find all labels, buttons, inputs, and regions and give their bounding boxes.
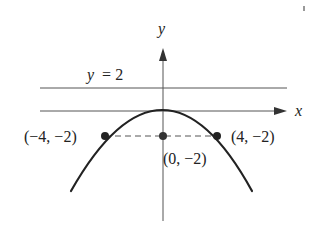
y-axis-label: y [156,20,166,38]
point-focus [159,132,167,140]
x-axis-label: x [294,102,302,119]
point-right [213,132,221,140]
point-focus-label: (0, −2) [163,150,207,168]
scan-artifact [303,6,305,11]
directrix-label: y = 2 [85,66,123,84]
directrix-label-rest: = 2 [102,66,123,83]
parabola-diagram: y = 2 x y (−4, −2) (0, −2) (4, −2) [0,0,333,228]
x-axis-arrow-icon [274,107,287,115]
point-left-label: (−4, −2) [24,128,77,146]
y-axis-arrow-icon [159,48,167,61]
directrix-label-var: y [85,66,95,84]
point-right-label: (4, −2) [231,128,275,146]
point-left [101,132,109,140]
parabola-curve [71,110,252,191]
